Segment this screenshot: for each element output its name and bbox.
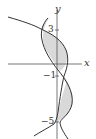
tick-label-neg1: −1 [43, 71, 56, 80]
y-axis-label: y [55, 4, 61, 14]
x-axis-label: x [84, 58, 90, 68]
tick-label-3: 3 [48, 25, 54, 34]
tick-label-neg5: −5 [41, 117, 54, 126]
shaded-region-upper [41, 17, 67, 71]
